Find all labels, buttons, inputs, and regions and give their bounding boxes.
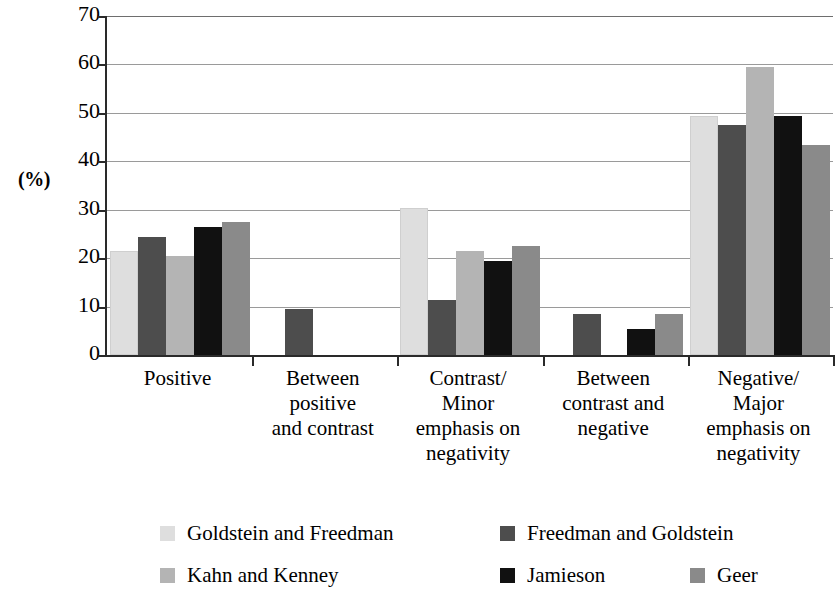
plot-area (105, 16, 833, 357)
legend-swatch-icon (500, 568, 515, 583)
legend-row: Kahn and KenneyJamiesonGeer (160, 560, 820, 600)
y-axis-tick-mark (98, 64, 107, 66)
legend-swatch-icon (160, 568, 175, 583)
x-axis-category-labels: PositiveBetweenpositiveand contrastContr… (105, 366, 831, 496)
legend-label: Kahn and Kenney (187, 563, 339, 587)
y-axis-tick-mark (98, 16, 107, 18)
x-axis-tick-mark (833, 355, 835, 366)
bar-group (397, 16, 542, 355)
bar (110, 251, 138, 355)
legend-item[interactable]: Freedman and Goldstein (500, 518, 733, 548)
bar-group (252, 16, 397, 355)
bar (138, 237, 166, 355)
x-axis-label-line: Major (686, 391, 831, 416)
legend-label: Geer (717, 563, 758, 587)
bar-group-bars (107, 16, 252, 355)
x-axis-label-line: Minor (395, 391, 540, 416)
y-axis-tick-label: 50 (58, 100, 100, 122)
bar (746, 67, 774, 355)
x-axis-label-line: negative (541, 416, 686, 441)
legend-swatch-icon (500, 526, 515, 541)
x-axis-category-label: Contrast/Minoremphasis onnegativity (395, 366, 540, 466)
bar (802, 145, 830, 355)
bar (222, 222, 250, 355)
legend-item[interactable]: Geer (690, 560, 758, 590)
legend-label: Goldstein and Freedman (187, 521, 393, 545)
bar-group-bars (397, 16, 542, 355)
x-axis-tick-mark (543, 355, 545, 366)
legend-swatch-icon (690, 568, 705, 583)
bar-group-bars (543, 16, 688, 355)
legend-row: Goldstein and FreedmanFreedman and Golds… (160, 518, 820, 558)
bar (718, 125, 746, 355)
bar (573, 314, 601, 355)
legend-item[interactable]: Goldstein and Freedman (160, 518, 393, 548)
legend-item[interactable]: Kahn and Kenney (160, 560, 339, 590)
bar-group (688, 16, 833, 355)
y-axis-tick-mark (98, 113, 107, 115)
bar (627, 329, 655, 355)
y-axis-tick-mark (98, 307, 107, 309)
x-axis-label-line: negativity (686, 441, 831, 466)
bar (194, 227, 222, 355)
x-axis-tick-mark (252, 355, 254, 366)
x-axis-label-line: contrast and (541, 391, 686, 416)
y-axis-tick-label: 0 (58, 342, 100, 364)
y-axis-tick-label: 30 (58, 197, 100, 219)
x-axis-tick-mark (397, 355, 399, 366)
x-axis-label-line: Positive (105, 366, 250, 391)
y-axis-tick-label: 20 (58, 245, 100, 267)
y-axis-tick-mark (98, 210, 107, 212)
x-axis-label-line: and contrast (250, 416, 395, 441)
x-axis-category-label: Betweenpositiveand contrast (250, 366, 395, 441)
x-axis-label-line: Negative/ (686, 366, 831, 391)
bar (512, 246, 540, 355)
x-axis-category-label: Betweencontrast andnegative (541, 366, 686, 441)
y-axis-tick-mark (98, 258, 107, 260)
y-axis-tick-mark (98, 355, 107, 357)
x-axis-label-line: Between (250, 366, 395, 391)
bar-group-bars (688, 16, 833, 355)
x-axis-label-line: Between (541, 366, 686, 391)
bar (456, 251, 484, 355)
bar (400, 208, 428, 355)
y-axis-tick-label: 60 (58, 51, 100, 73)
bar (690, 116, 718, 355)
x-axis-tick-mark (688, 355, 690, 366)
bar (166, 256, 194, 355)
chart-legend: Goldstein and FreedmanFreedman and Golds… (160, 518, 820, 600)
bar-group (107, 16, 252, 355)
x-axis-label-line: negativity (395, 441, 540, 466)
bar (428, 300, 456, 355)
x-axis-label-line: emphasis on (686, 416, 831, 441)
x-axis-label-line: Contrast/ (395, 366, 540, 391)
legend-label: Freedman and Goldstein (527, 521, 733, 545)
y-axis-tick-label: 10 (58, 294, 100, 316)
x-axis-label-line: emphasis on (395, 416, 540, 441)
bar (774, 116, 802, 355)
x-axis-category-label: Negative/Majoremphasis onnegativity (686, 366, 831, 466)
x-axis-category-label: Positive (105, 366, 250, 391)
y-axis-tick-mark (98, 161, 107, 163)
bar (285, 309, 313, 355)
x-axis-label-line: positive (250, 391, 395, 416)
legend-item[interactable]: Jamieson (500, 560, 605, 590)
legend-swatch-icon (160, 526, 175, 541)
bar-group (543, 16, 688, 355)
y-axis-tick-label: 40 (58, 148, 100, 170)
bar-chart: (%) 706050403020100 PositiveBetweenposit… (0, 0, 836, 607)
y-axis-tick-label: 70 (58, 3, 100, 25)
bar (484, 261, 512, 355)
y-axis-tick-labels: 706050403020100 (30, 0, 100, 607)
bar-group-bars (252, 16, 397, 355)
legend-label: Jamieson (527, 563, 605, 587)
bar (655, 314, 683, 355)
